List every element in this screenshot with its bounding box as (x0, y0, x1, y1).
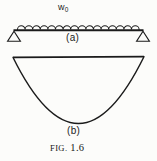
figure-container: w0 (a) (b) FIG. 1.6 (0, 0, 157, 161)
panel-a-label: (a) (66, 33, 79, 43)
load-subscript: 0 (65, 6, 69, 13)
panel-b-group (13, 57, 144, 124)
moment-diagram-chord (13, 57, 144, 58)
moment-diagram-parabola (13, 57, 144, 124)
caption-number: 1.6 (70, 142, 84, 153)
load-symbol: w (58, 2, 65, 12)
right-support-triangle-icon (137, 31, 150, 41)
left-support-triangle-icon (8, 31, 21, 41)
figure-drawing (0, 0, 157, 161)
figure-caption: FIG. 1.6 (50, 143, 84, 154)
panel-b-label: (b) (67, 126, 80, 136)
distributed-load-scallops (18, 26, 140, 30)
load-magnitude-label: w0 (58, 3, 68, 14)
caption-prefix: FIG. (50, 143, 67, 153)
